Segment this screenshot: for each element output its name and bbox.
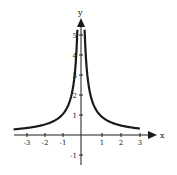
y-tick-label: -1 — [70, 152, 77, 160]
function-graph: -3 -2 -1 1 2 3 -1 1 2 3 4 5 x y — [0, 0, 177, 175]
x-axis-label: x — [160, 131, 165, 140]
x-tick-label: -3 — [24, 139, 31, 147]
x-axis-arrow-icon — [148, 131, 157, 139]
y-axis-label: y — [77, 8, 83, 17]
curve-left-branch — [14, 30, 78, 130]
x-tick-label: -2 — [42, 139, 49, 147]
x-tick-label: 2 — [119, 139, 123, 147]
y-tick-label: 1 — [73, 112, 77, 120]
y-tick-label: 2 — [73, 92, 77, 100]
x-tick-label: 1 — [100, 139, 104, 147]
curve-right-branch — [85, 30, 140, 129]
x-tick-label: -1 — [60, 139, 67, 147]
x-tick-label: 3 — [138, 139, 142, 147]
y-axis-arrow-icon — [77, 18, 85, 27]
